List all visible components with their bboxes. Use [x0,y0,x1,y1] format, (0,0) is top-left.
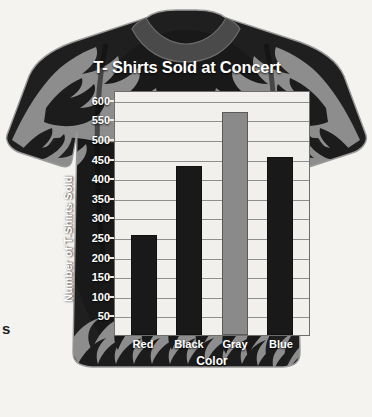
screenshot-root: T- Shirts Sold at Concert Number of T-Sh… [0,0,372,417]
y-tick-mark [108,296,114,298]
bar-blue [267,157,293,335]
plot-area [114,91,310,336]
y-tick-mark [108,237,114,239]
x-axis-ticks: RedBlackGrayBlue [114,338,310,350]
plot-area-outer: 50100150200250300350400450500550600 [114,91,310,336]
y-tick-mark [108,198,114,200]
x-axis-label: Color [114,354,310,368]
y-tick-mark [108,276,114,278]
bar-chart: T- Shirts Sold at Concert Number of T-Sh… [64,58,310,350]
page-margin-text: s [2,320,11,337]
bar-series [115,92,309,335]
bar-gray [222,112,248,335]
y-tick-mark [108,257,114,259]
y-tick-mark [108,178,114,180]
y-tick-mark [108,159,114,161]
y-tick-mark [108,119,114,121]
x-tick-label: Red [123,338,163,350]
bar-red [131,235,157,335]
chart-title: T- Shirts Sold at Concert [64,58,310,77]
y-axis-label: Number of T-Shirts Sold [62,154,74,324]
y-tick-mark [108,139,114,141]
x-tick-label: Blue [261,338,301,350]
x-tick-label: Gray [215,338,255,350]
y-tick-mark [108,217,114,219]
x-tick-label: Black [169,338,209,350]
y-tick-mark [108,315,114,317]
bar-black [176,166,202,335]
y-tick-mark [108,100,114,102]
